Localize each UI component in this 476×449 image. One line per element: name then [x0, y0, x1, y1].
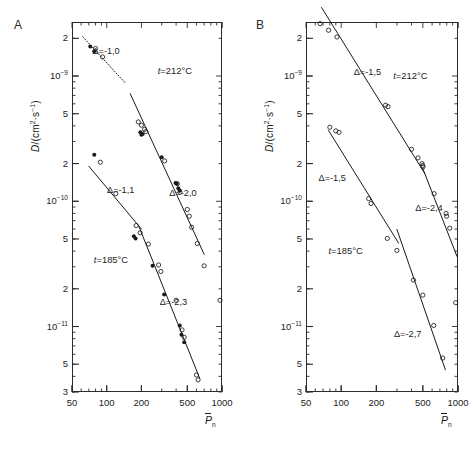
panel-a-plot-canvas — [0, 0, 238, 449]
panel-b-y-tick-label: 2 — [262, 32, 302, 43]
panel-a-y-tick-label: 2 — [28, 283, 68, 294]
panel-a-x-tick-label: 1000 — [202, 397, 242, 408]
panel-a-x-axis-label: Pn — [205, 414, 216, 426]
panel-a-y-tick-label: 5 — [28, 108, 68, 119]
panel-b-y-tick-label: 10−11 — [262, 321, 302, 332]
panel-b-y-tick-label: 5 — [262, 233, 302, 244]
panel-a-y-tick-label: 10−11 — [28, 321, 68, 332]
panel-a-temperature-label: t=185°C — [94, 254, 128, 265]
panel-b-y-tick-label: 3 — [262, 386, 302, 397]
panel-a-y-tick-label: 5 — [28, 358, 68, 369]
panel-b-y-tick-label: 2 — [262, 283, 302, 294]
panel-b-x-axis-label: Pn — [441, 414, 452, 426]
panel-b-slope-label: Δ=-2,4 — [415, 203, 442, 213]
panel-a-y-tick-label: 10−9 — [28, 70, 68, 81]
panel-b-y-tick-label: 10−9 — [262, 70, 302, 81]
panel-a-y-tick-label: 2 — [28, 32, 68, 43]
panel-a-slope-label: Δ=-1,0 — [92, 46, 119, 56]
panel-a-temperature-label: t=212°C — [158, 65, 192, 76]
panel-a-x-tick-label: 200 — [121, 397, 161, 408]
panel-a-slope-label: Δ=-2,3 — [160, 297, 187, 307]
panel-b-x-tick-label: 50 — [286, 397, 326, 408]
panel-b-x-tick-label: 200 — [356, 397, 396, 408]
panel-b-y-tick-label: 5 — [262, 358, 302, 369]
panel-b: B D/(cm2·s−1) Pn 210−95210−105210−115350… — [238, 0, 476, 449]
panel-b-y-tick-label: 10−10 — [262, 195, 302, 206]
panel-a-y-tick-label: 5 — [28, 233, 68, 244]
panel-b-y-tick-label: 2 — [262, 158, 302, 169]
panel-a: A D/(cm2·s−1) Pn 210−95210−105210−115350… — [0, 0, 238, 449]
panel-a-slope-label: Δ=-1,1 — [107, 185, 134, 195]
panel-a-y-tick-label: 3 — [28, 386, 68, 397]
panel-b-x-tick-label: 1000 — [438, 397, 476, 408]
panel-a-y-tick-label: 2 — [28, 158, 68, 169]
panel-b-x-tick-label: 500 — [403, 397, 443, 408]
panel-a-y-tick-label: 10−10 — [28, 195, 68, 206]
panel-b-temperature-label: t=185°C — [328, 245, 362, 256]
panel-b-slope-label: Δ=-1,5 — [354, 67, 381, 77]
panel-a-slope-label: Δ=-2,0 — [169, 188, 196, 198]
figure-root: A D/(cm2·s−1) Pn 210−95210−105210−115350… — [0, 0, 476, 449]
panel-b-slope-label: Δ=-1,5 — [319, 173, 346, 183]
panel-b-x-tick-label: 100 — [321, 397, 361, 408]
panel-b-y-tick-label: 5 — [262, 108, 302, 119]
panel-b-slope-label: Δ=-2,7 — [394, 329, 421, 339]
panel-b-temperature-label: t=212°C — [393, 70, 427, 81]
